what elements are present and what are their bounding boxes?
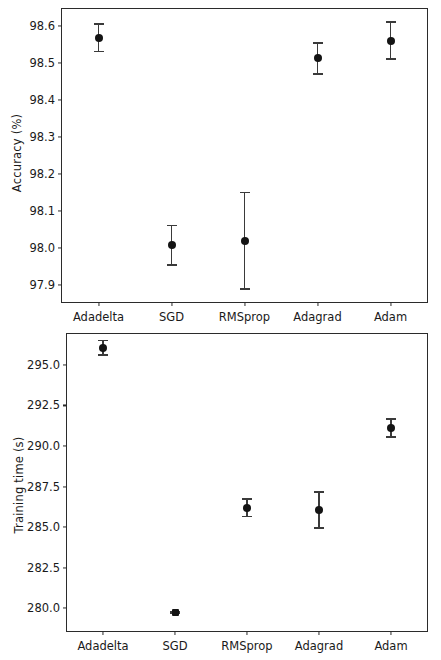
- y-axis-tick-mark: [58, 136, 62, 137]
- y-axis-tick-mark: [63, 486, 67, 487]
- y-axis-tick-mark: [63, 364, 67, 365]
- y-axis-tick-label: 290.0: [27, 439, 67, 453]
- y-axis-tick-label: 282.5: [27, 561, 67, 575]
- data-point-marker: [314, 54, 322, 62]
- error-bar-cap: [386, 58, 396, 60]
- x-axis-tick-mark: [174, 631, 175, 635]
- data-point-marker: [241, 237, 249, 245]
- y-axis-tick-mark: [58, 25, 62, 26]
- y-axis-tick-mark: [63, 445, 67, 446]
- x-axis-tick-mark: [390, 302, 391, 306]
- y-axis-tick-mark: [58, 99, 62, 100]
- y-axis-tick-label: 292.5: [27, 398, 67, 412]
- chart-panel-accuracy: Accuracy (%) 97.998.098.198.298.398.498.…: [0, 0, 441, 330]
- data-point-marker: [172, 609, 179, 616]
- y-axis-tick-mark: [58, 285, 62, 286]
- data-point-marker: [168, 241, 176, 249]
- y-axis-tick-mark: [58, 211, 62, 212]
- error-bar-cap: [242, 516, 252, 518]
- error-bar-cap: [94, 51, 104, 53]
- data-point-marker: [95, 34, 103, 42]
- error-bar-cap: [313, 42, 323, 44]
- x-axis-tick-mark: [102, 631, 103, 635]
- error-bar-cap: [313, 73, 323, 75]
- y-axis-tick-mark: [58, 62, 62, 63]
- x-axis-tick-mark: [246, 631, 247, 635]
- chart-panel-training-time: Training time (s) 280.0282.5285.0287.529…: [0, 330, 441, 660]
- x-axis-tick-mark: [98, 302, 99, 306]
- data-point-marker: [99, 344, 107, 352]
- error-bar-cap: [314, 491, 324, 493]
- figure-optimizer-comparison: Accuracy (%) 97.998.098.198.298.398.498.…: [0, 0, 441, 660]
- y-axis-tick-mark: [63, 405, 67, 406]
- data-point-marker: [315, 506, 323, 514]
- error-bar-cap: [386, 436, 396, 438]
- error-bar-cap: [98, 354, 108, 356]
- error-bar-cap: [167, 225, 177, 227]
- y-axis-tick-label: 285.0: [27, 520, 67, 534]
- error-bar-cap: [240, 288, 250, 290]
- x-axis-tick-mark: [244, 302, 245, 306]
- x-axis-tick-mark: [318, 631, 319, 635]
- y-axis-label-accuracy: Accuracy (%): [10, 98, 24, 208]
- y-axis-tick-mark: [58, 173, 62, 174]
- y-axis-tick-label: 287.5: [27, 480, 67, 494]
- x-axis-tick-mark: [171, 302, 172, 306]
- data-point-marker: [243, 504, 251, 512]
- plot-area-accuracy: 97.998.098.198.298.398.498.598.6Adadelta…: [61, 8, 428, 303]
- error-bar-cap: [94, 23, 104, 25]
- error-bar-cap: [240, 192, 250, 194]
- y-axis-label-training-time: Training time (s): [12, 430, 26, 540]
- error-bar-cap: [98, 340, 108, 342]
- error-bar-cap: [242, 498, 252, 500]
- error-bar-cap: [386, 21, 396, 23]
- plot-area-training-time: 280.0282.5285.0287.5290.0292.5295.0Adade…: [66, 333, 428, 632]
- y-axis-tick-mark: [63, 567, 67, 568]
- error-bar-cap: [386, 418, 396, 420]
- y-axis-tick-mark: [63, 608, 67, 609]
- y-axis-tick-label: 280.0: [27, 601, 67, 615]
- data-point-marker: [387, 424, 395, 432]
- data-point-marker: [387, 37, 395, 45]
- error-bar-cap: [314, 527, 324, 529]
- x-axis-tick-mark: [390, 631, 391, 635]
- y-axis-tick-label: 295.0: [27, 358, 67, 372]
- error-bar-cap: [167, 264, 177, 266]
- y-axis-tick-mark: [58, 248, 62, 249]
- x-axis-tick-mark: [317, 302, 318, 306]
- y-axis-tick-mark: [63, 527, 67, 528]
